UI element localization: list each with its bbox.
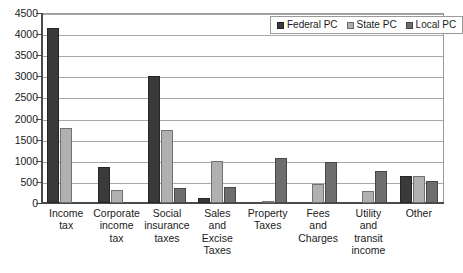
bar-group (192, 13, 242, 203)
bar (211, 161, 223, 203)
legend-swatch-icon (347, 22, 354, 29)
legend-swatch-icon (406, 22, 413, 29)
legend-label: Local PC (416, 20, 457, 30)
x-axis-label-line: and (293, 219, 343, 231)
x-axis-label: Utilityandtransitincome (343, 207, 393, 257)
bar (161, 130, 173, 203)
bar-group (243, 13, 293, 203)
x-axis-category-labels: IncometaxCorporateincometaxSocialinsuran… (41, 207, 444, 273)
x-axis-label-line: income (343, 244, 393, 256)
x-axis-label: Other (394, 207, 444, 219)
x-axis-label: PropertyTaxes (243, 207, 293, 232)
x-axis-label-line: Taxes (192, 244, 242, 256)
y-axis-tick-label: 1000 (2, 156, 38, 167)
bar (111, 190, 123, 203)
bars-layer (41, 13, 444, 203)
bar-group (343, 13, 393, 203)
y-axis-tick-label: 3000 (2, 71, 38, 82)
bar (312, 184, 324, 203)
y-axis-tick-label: 3500 (2, 50, 38, 61)
bar (426, 181, 438, 203)
y-axis-tick-label: 1500 (2, 134, 38, 145)
x-axis-label: SalesandExciseTaxes (192, 207, 242, 257)
x-axis-label-line: Social (142, 207, 192, 219)
x-axis-label-line: insurance (142, 219, 192, 231)
bar-group (293, 13, 343, 203)
x-axis-label-line: Excise (192, 232, 242, 244)
x-axis-label: FeesandCharges (293, 207, 343, 244)
bar (262, 201, 274, 203)
bar (362, 191, 374, 203)
x-axis-label-line: Sales (192, 207, 242, 219)
y-axis-tick-label: 4500 (2, 8, 38, 19)
x-axis-label-line: tax (41, 219, 91, 231)
x-axis-label-line: Charges (293, 232, 343, 244)
y-axis-tick-label: 500 (2, 177, 38, 188)
x-axis-label: Incometax (41, 207, 91, 232)
bar (224, 187, 236, 203)
bar-group (142, 13, 192, 203)
legend-entry: Federal PC (277, 20, 338, 30)
x-axis-label: Socialinsurancetaxes (142, 207, 192, 244)
x-axis-label-line: Property (243, 207, 293, 219)
bar-group (41, 13, 91, 203)
bar (198, 198, 210, 203)
bar (375, 171, 387, 204)
y-axis-tick-label: 0 (2, 198, 38, 209)
bar-group (394, 13, 444, 203)
legend-entry: Local PC (406, 20, 457, 30)
x-axis-label-line: taxes (142, 232, 192, 244)
legend-swatch-icon (277, 22, 284, 29)
y-axis-tick-mark (36, 203, 42, 204)
x-axis-label-line: Other (394, 207, 444, 219)
chart-legend: Federal PCState PCLocal PC (270, 16, 463, 34)
x-axis-label-line: Corporate (91, 207, 141, 219)
y-axis-tick-labels: 450040003500300025002000150010005000 (0, 0, 38, 273)
x-axis-label-line: transit (343, 232, 393, 244)
bar (275, 158, 287, 203)
x-axis-label-line: and (192, 219, 242, 231)
x-axis-label-line: Taxes (243, 219, 293, 231)
bar (98, 167, 110, 203)
legend-label: State PC (357, 20, 397, 30)
bar (325, 162, 337, 203)
y-axis-tick-label: 2000 (2, 113, 38, 124)
bar (400, 176, 412, 203)
legend-entry: State PC (347, 20, 397, 30)
y-axis-tick-label: 4000 (2, 29, 38, 40)
bar (47, 28, 59, 203)
bar (148, 76, 160, 203)
x-axis-label-line: Utility (343, 207, 393, 219)
legend-label: Federal PC (287, 20, 338, 30)
x-axis-label-line: Fees (293, 207, 343, 219)
x-axis-label-line: income (91, 219, 141, 231)
bar (60, 128, 72, 203)
x-axis-label-line: Income (41, 207, 91, 219)
x-axis-label: Corporateincometax (91, 207, 141, 244)
y-axis-tick-label: 2500 (2, 92, 38, 103)
x-axis-label-line: and (343, 219, 393, 231)
bar (413, 176, 425, 203)
x-axis-label-line: tax (91, 232, 141, 244)
bar (174, 188, 186, 203)
bar-group (91, 13, 141, 203)
